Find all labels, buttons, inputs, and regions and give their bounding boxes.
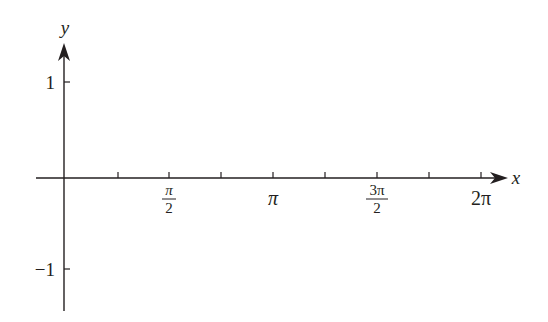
- x-ticks: [118, 172, 481, 178]
- y-tick-label-minus-1: −1: [35, 259, 55, 280]
- chart-canvas: y x 1 −1 π 2 π 3π 2 2π: [0, 0, 548, 322]
- y-axis-label: y: [59, 17, 70, 38]
- x-tick-label-pi-half: π 2: [162, 182, 176, 216]
- svg-text:π: π: [165, 182, 173, 198]
- x-tick-label-pi: π: [268, 187, 279, 209]
- svg-text:3π: 3π: [369, 182, 385, 198]
- x-tick-label-two-pi: 2π: [471, 187, 491, 209]
- x-tick-label-three-pi-half: 3π 2: [366, 182, 388, 216]
- svg-text:2: 2: [373, 200, 381, 216]
- y-tick-label-1: 1: [46, 72, 56, 93]
- x-axis-label: x: [511, 167, 521, 188]
- svg-text:2: 2: [165, 200, 173, 216]
- y-ticks: [64, 82, 70, 269]
